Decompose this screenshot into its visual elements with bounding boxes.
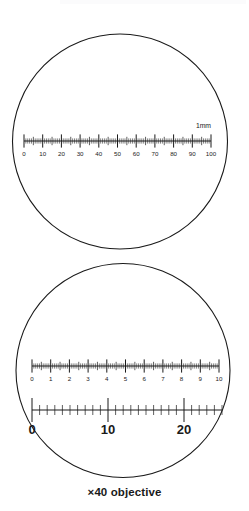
figure-caption: ×40 objective — [0, 486, 249, 498]
graticule-diagram-canvas: 0102030405060708090100 1mm 012345678910 … — [0, 0, 249, 511]
scale-tick-label: 70 — [151, 150, 158, 157]
scale-tick-label: 10 — [101, 422, 115, 437]
graticule-figure: 0102030405060708090100 1mm 012345678910 … — [0, 0, 249, 511]
eyepiece-graticule-fine-scale: 012345678910 — [30, 359, 223, 382]
scale-tick-label: 9 — [199, 375, 203, 382]
scale-tick-label: 0 — [28, 422, 35, 437]
upper-field-of-view: 0102030405060708090100 1mm — [13, 34, 228, 249]
scale-tick-label: 50 — [114, 150, 121, 157]
scale-tick-label: 20 — [58, 150, 65, 157]
scale-tick-label: 0 — [30, 375, 34, 382]
scale-tick-label: 20 — [177, 422, 191, 437]
scale-tick-label: 1 — [49, 375, 53, 382]
scale-tick-label: 10 — [39, 150, 46, 157]
scale-tick-label: 5 — [124, 375, 128, 382]
scale-tick-label: 0 — [22, 150, 26, 157]
scale-tick-label: 30 — [77, 150, 84, 157]
unit-label-1mm: 1mm — [196, 122, 211, 129]
scale-tick-label: 80 — [170, 150, 177, 157]
scale-tick-label: 4 — [105, 375, 109, 382]
lower-field-circle — [16, 264, 230, 478]
lower-field-of-view: 012345678910 01020 — [16, 264, 230, 478]
scale-tick-label: 6 — [142, 375, 146, 382]
scale-tick-label: 7 — [161, 375, 165, 382]
scale-tick-label: 8 — [180, 375, 184, 382]
stage-micrometer-scale: 0102030405060708090100 — [22, 134, 216, 157]
scale-tick-label: 3 — [86, 375, 90, 382]
scale-tick-label: 100 — [206, 150, 217, 157]
eyepiece-graticule-coarse-scale: 01020 — [28, 398, 222, 437]
scale-tick-label: 10 — [216, 375, 223, 382]
scale-tick-label: 2 — [68, 375, 72, 382]
scale-tick-label: 40 — [95, 150, 102, 157]
scale-tick-label: 60 — [133, 150, 140, 157]
scale-tick-label: 90 — [189, 150, 196, 157]
